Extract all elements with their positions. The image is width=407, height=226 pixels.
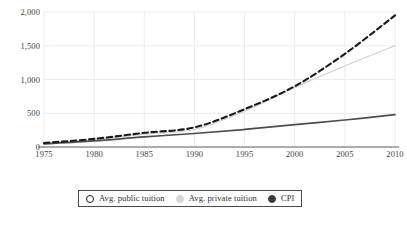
chart-canvas [44,12,395,147]
x-tick-label: 1975 [35,150,52,159]
series-line [44,46,395,144]
figure-container: 05001,0001,5002,000 19751980198519901995… [0,0,407,226]
y-axis: 05001,0001,5002,000 [0,12,40,147]
chart-legend: Avg. public tuitionAvg. private tuitionC… [78,190,302,207]
figure-caption [4,217,403,226]
plot-area [44,12,395,147]
x-tick-label: 1980 [85,150,102,159]
y-tick-label: 500 [0,109,40,118]
x-axis: 19751980198519901995200020052010 [44,150,395,164]
dark-circle-icon [268,195,276,203]
legend-entry[interactable]: CPI [268,194,295,203]
legend-label: CPI [281,194,295,203]
x-tick-label: 1990 [186,150,203,159]
legend-label: Avg. public tuition [99,194,165,203]
x-tick-label: 2005 [336,150,353,159]
light-circle-icon [176,195,184,203]
y-tick-label: 1,000 [0,75,40,84]
y-tick-label: 2,000 [0,8,40,17]
x-tick-label: 1985 [136,150,153,159]
legend-entry[interactable]: Avg. public tuition [86,194,165,203]
y-tick-label: 1,500 [0,42,40,51]
gridlines [44,12,395,147]
legend-entry[interactable]: Avg. private tuition [176,194,257,203]
x-tick-label: 2000 [286,150,303,159]
x-tick-label: 1995 [236,150,253,159]
legend-label: Avg. private tuition [189,194,257,203]
open-circle-icon [86,195,94,203]
y-tick-label: 0 [0,143,40,152]
x-tick-label: 2010 [386,150,403,159]
